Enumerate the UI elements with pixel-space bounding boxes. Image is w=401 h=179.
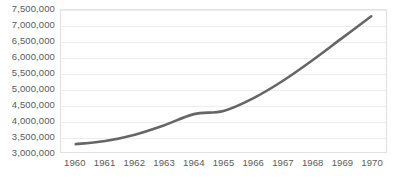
y-axis-tick-label: 7,500,000	[12, 4, 55, 14]
x-axis-tick-label: 1966	[242, 158, 264, 168]
plot-area	[60, 9, 387, 153]
y-axis-tick-label: 5,500,000	[12, 68, 55, 78]
x-axis-tick-label: 1960	[64, 158, 86, 168]
y-axis-tick-label: 6,000,000	[12, 52, 55, 62]
x-axis-tick-label: 1961	[94, 158, 116, 168]
y-axis: 3,000,0003,500,0004,000,0004,500,0005,00…	[0, 0, 58, 158]
x-axis-tick-label: 1969	[332, 158, 354, 168]
x-axis-tick-label: 1965	[213, 158, 235, 168]
y-axis-tick-label: 4,500,000	[12, 100, 55, 110]
y-axis-tick-label: 6,500,000	[12, 36, 55, 46]
x-axis-tick-label: 1963	[153, 158, 175, 168]
y-axis-tick-label: 5,000,000	[12, 84, 55, 94]
series-line	[76, 16, 371, 144]
y-axis-tick-label: 3,500,000	[12, 132, 55, 142]
x-axis-tick-label: 1967	[272, 158, 294, 168]
line-chart: 3,000,0003,500,0004,000,0004,500,0005,00…	[0, 0, 401, 179]
y-axis-tick-label: 3,000,000	[12, 148, 55, 158]
y-axis-tick-label: 4,000,000	[12, 116, 55, 126]
x-axis-tick-label: 1970	[361, 158, 383, 168]
series-line-group	[61, 10, 386, 152]
x-axis-tick-label: 1968	[302, 158, 324, 168]
x-axis-tick-label: 1964	[183, 158, 205, 168]
x-axis-tick-label: 1962	[124, 158, 146, 168]
x-axis: 1960196119621963196419651966196719681969…	[60, 158, 387, 176]
y-axis-tick-label: 7,000,000	[12, 20, 55, 30]
